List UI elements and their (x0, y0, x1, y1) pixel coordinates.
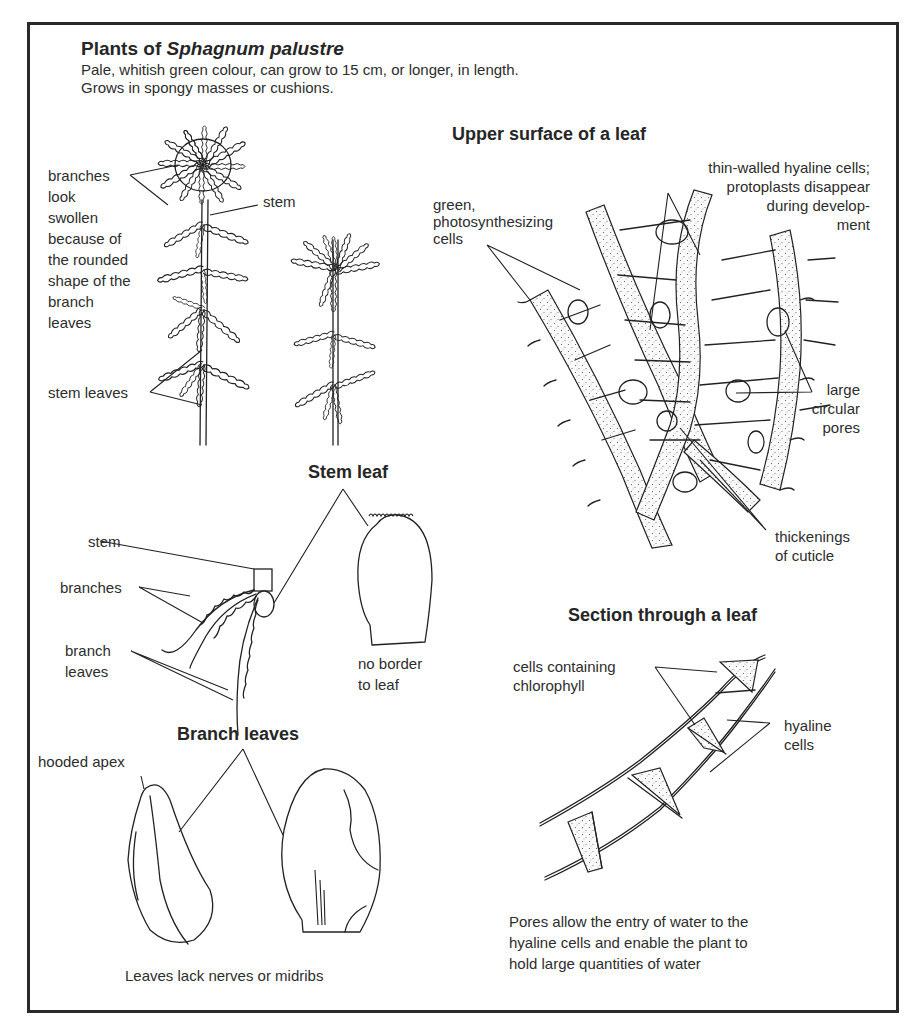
label-stem: stem (263, 193, 296, 210)
label-green-cells: green, photosynthesizing cells (433, 196, 553, 247)
label-stem-2: stem (88, 533, 121, 550)
heading-branch-leaves: Branch leaves (177, 724, 299, 745)
description-line-2: Grows in spongy masses or cushions. (81, 79, 334, 96)
page-title: Plants of Sphagnum palustre (81, 38, 344, 60)
label-no-border: no border to leaf (358, 653, 422, 695)
illustrations (0, 0, 912, 1035)
branch-leaf-side-illustration (128, 785, 213, 944)
label-thickenings-of-cuticle: thickenings of cuticle (775, 527, 850, 565)
moss-plant-right-illustration (291, 233, 380, 445)
stem-leaf-illustration (358, 514, 432, 645)
caption-pores: Pores allow the entry of water to the hy… (509, 911, 748, 974)
heading-section-through-leaf: Section through a leaf (568, 605, 757, 626)
heading-upper-surface: Upper surface of a leaf (452, 124, 646, 145)
label-large-circular-pores: large circular pores (790, 380, 860, 437)
label-hyaline-cells-section: hyaline cells (784, 716, 832, 754)
caption-leaves-lack-nerves: Leaves lack nerves or midribs (125, 967, 323, 984)
label-stem-leaves: stem leaves (48, 384, 128, 401)
label-hyaline-cells: thin-walled hyaline cells; protoplasts d… (630, 158, 870, 234)
heading-stem-leaf: Stem leaf (308, 462, 388, 483)
label-branch-leaves: branch leaves (65, 640, 111, 682)
label-branches-swollen: branches look swollen because of the rou… (48, 165, 131, 333)
label-chlorophyll-cells: cells containing chlorophyll (513, 657, 616, 695)
description-line-1: Pale, whitish green colour, can grow to … (81, 61, 519, 78)
label-hooded-apex: hooded apex (38, 753, 125, 770)
leaf-surface-cell-network (518, 190, 838, 548)
label-branches: branches (60, 579, 122, 596)
leader-stem (210, 205, 258, 215)
branch-leaf-front-illustration (282, 769, 380, 932)
